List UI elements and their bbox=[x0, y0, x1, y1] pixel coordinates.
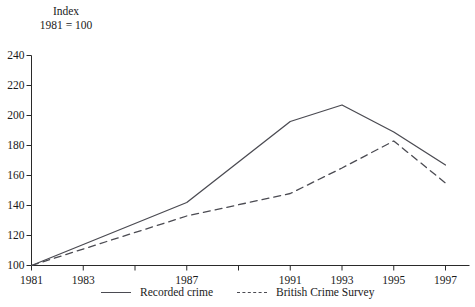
legend-item-recorded-crime: Recorded crime bbox=[101, 286, 213, 298]
y-axis-tick-label: 140 bbox=[0, 200, 25, 212]
y-axis-tick-label: 100 bbox=[0, 260, 25, 272]
legend-swatch-solid-line bbox=[101, 292, 131, 293]
chart-legend: Recorded crime British Crime Survey bbox=[0, 284, 475, 306]
series-line-british-crime-survey bbox=[32, 141, 446, 266]
legend-swatch-dashed-line bbox=[237, 292, 267, 293]
plot-area bbox=[0, 0, 475, 307]
y-axis-tick-label: 180 bbox=[0, 140, 25, 152]
y-axis-tick-label: 200 bbox=[0, 110, 25, 122]
y-axis-tick-label: 220 bbox=[0, 80, 25, 92]
legend-label-recorded-crime: Recorded crime bbox=[140, 286, 213, 298]
y-axis-tick-label: 160 bbox=[0, 170, 25, 182]
y-axis-tick-label: 120 bbox=[0, 230, 25, 242]
line-chart: Index 1981 = 100 24022020018016014012010… bbox=[0, 0, 475, 307]
legend-label-british-crime-survey: British Crime Survey bbox=[276, 286, 374, 298]
y-axis-tick-label: 240 bbox=[0, 50, 25, 62]
legend-item-british-crime-survey: British Crime Survey bbox=[237, 286, 374, 298]
series-line-recorded-crime bbox=[32, 105, 446, 266]
